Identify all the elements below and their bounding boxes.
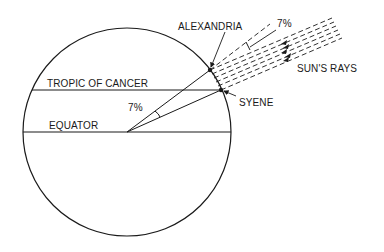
- top-angle-arc: [246, 42, 250, 50]
- top-angle-label: 7%: [277, 19, 292, 29]
- center-angle-label: 7%: [128, 103, 143, 113]
- syene-label: SYENE: [239, 98, 273, 108]
- syene-pointer: [224, 91, 236, 96]
- tropic-label: TROPIC OF CANCER: [47, 79, 148, 89]
- suns-rays-label: SUN'S RAYS: [297, 64, 357, 74]
- angle-leader: [250, 30, 276, 47]
- center-angle-arc: [155, 111, 160, 117]
- alexandria-pointer: [211, 32, 225, 67]
- alexandria-label: ALEXANDRIA: [178, 22, 242, 32]
- ray-arrowheads: [281, 40, 291, 62]
- equator-label: EQUATOR: [49, 121, 98, 131]
